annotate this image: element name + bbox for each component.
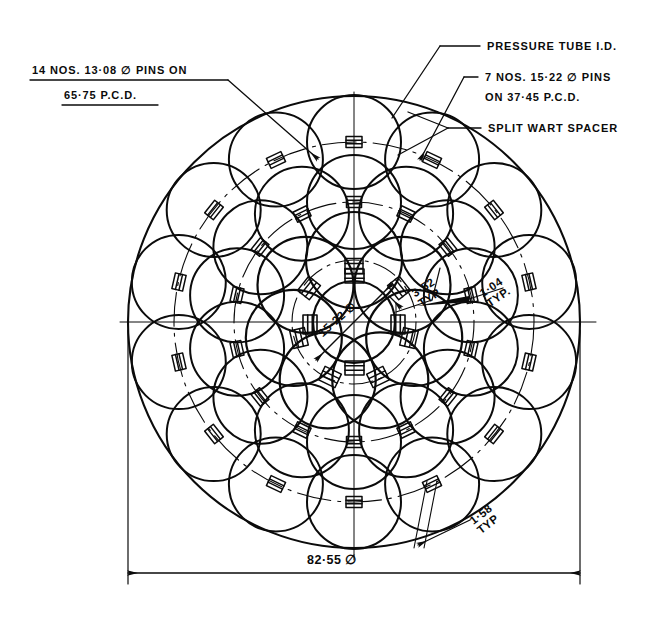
leader-line-14nos — [228, 80, 318, 159]
note-14-nos-line1: 14 NOS. 13·08 ∅ PINS ON — [32, 64, 187, 76]
pin-inner — [332, 332, 428, 428]
note-7-nos-pins: 7 NOS. 15·22 ∅ PINS — [485, 70, 611, 85]
dim-overall-text: 82·55 ∅ — [307, 553, 357, 567]
leader-line-pressure-tube-2 — [392, 46, 440, 118]
note-37-pcd: ON 37·45 P.C.D. — [485, 90, 580, 105]
drawing-sheet: 14 NOS. 13·08 ∅ PINS ON 65·75 P.C.D. PRE… — [0, 0, 669, 625]
split-wart-spacer — [172, 273, 186, 291]
note-14-nos-pins: 14 NOS. 13·08 ∅ PINS ON — [32, 63, 187, 78]
pin-inner — [280, 332, 376, 428]
split-wart-spacer — [485, 200, 504, 219]
note-37-pcd-text: ON 37·45 P.C.D. — [485, 91, 580, 103]
note-65-pcd-text: 65·75 P.C.D. — [64, 89, 137, 101]
note-pressure-tube-id: PRESSURE TUBE I.D. — [487, 39, 617, 54]
note-7-nos-line1: 7 NOS. 15·22 ∅ PINS — [485, 71, 611, 83]
note-pressure-tube-text: PRESSURE TUBE I.D. — [487, 40, 617, 52]
note-65-pcd: 65·75 P.C.D. — [64, 88, 137, 103]
dim-overall-diameter: 82·55 ∅ — [307, 553, 357, 567]
split-wart-spacer — [205, 424, 224, 443]
note-split-wart-text: SPLIT WART SPACER — [488, 122, 618, 134]
note-split-wart-spacer: SPLIT WART SPACER — [488, 121, 618, 136]
leader-line-7nos-2 — [420, 77, 464, 160]
leader-line-split-wart-2 — [398, 128, 448, 155]
split-wart-spacer — [522, 353, 536, 371]
